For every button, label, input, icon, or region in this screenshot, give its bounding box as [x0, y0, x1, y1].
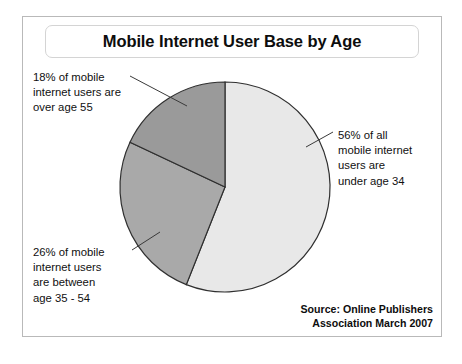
annotation-under-34: 56% of all mobile internet users are und…: [338, 128, 438, 189]
annotation-between-35-54: 26% of mobile internet users are between…: [33, 245, 153, 306]
annotation-over-55: 18% of mobile internet users are over ag…: [33, 70, 163, 116]
source-credit: Source: Online Publishers Association Ma…: [213, 303, 433, 330]
chart-canvas: Mobile Internet User Base by Age 18% of …: [0, 0, 462, 364]
